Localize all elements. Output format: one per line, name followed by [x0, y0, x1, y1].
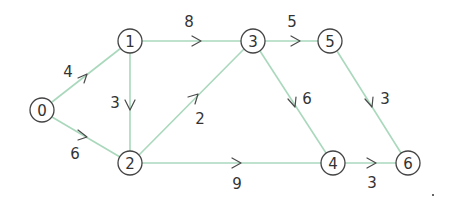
node-6-label: 6	[403, 155, 413, 173]
node-4: 4	[321, 151, 345, 175]
node-2-label: 2	[125, 155, 135, 173]
node-1-label: 1	[125, 33, 135, 51]
node-0: 0	[30, 98, 54, 122]
weight-0-1: 4	[63, 63, 73, 81]
node-3: 3	[241, 29, 265, 53]
nodes: 0 1 2 3 4 5 6	[30, 29, 420, 175]
edge-5-6	[337, 51, 401, 153]
weight-2-3: 2	[195, 110, 205, 128]
directed-weighted-graph: 4 6 3 8 2 9 5 6 3 3 0 1 2 3 4	[0, 0, 451, 207]
node-4-label: 4	[328, 155, 338, 173]
node-6: 6	[396, 151, 420, 175]
node-1: 1	[118, 29, 142, 53]
edge-3-4	[260, 51, 326, 153]
arrow-3-4-icon	[288, 97, 296, 107]
weight-1-3: 8	[184, 13, 194, 31]
stray-dot	[432, 194, 434, 196]
arrowheads	[78, 36, 376, 168]
node-5: 5	[318, 29, 342, 53]
node-2: 2	[118, 151, 142, 175]
node-0-label: 0	[37, 102, 47, 120]
weight-1-2: 3	[110, 94, 120, 112]
node-5-label: 5	[325, 33, 335, 51]
weight-4-6: 3	[367, 174, 377, 192]
weight-5-6: 3	[380, 90, 390, 108]
weight-2-4: 9	[232, 175, 242, 193]
edges	[52, 41, 401, 163]
weight-3-4: 6	[302, 90, 312, 108]
arrow-2-3-icon	[188, 94, 198, 104]
weight-3-5: 5	[287, 13, 297, 31]
node-3-label: 3	[248, 33, 258, 51]
weight-0-2: 6	[70, 145, 80, 163]
edge-2-3	[139, 49, 244, 155]
